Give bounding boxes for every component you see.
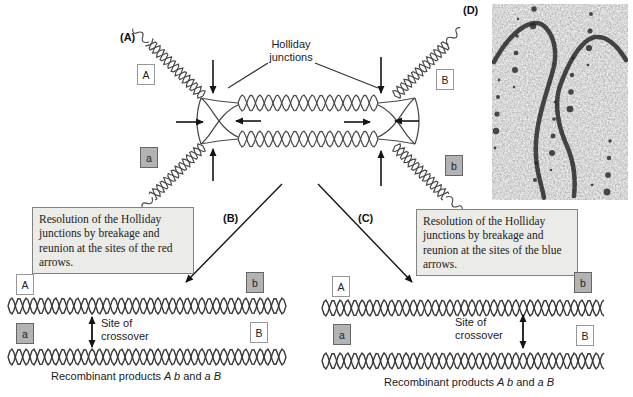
caption-genotype-1: A b bbox=[497, 376, 513, 388]
allele-box-A: A bbox=[137, 64, 155, 85]
product-right-duplex-bottom bbox=[322, 353, 604, 369]
product-left-allele-b: b bbox=[246, 272, 264, 293]
product-left-duplex-top bbox=[8, 298, 286, 314]
strand-end-squiggle bbox=[444, 26, 463, 45]
recombinant-products-caption-right: Recombinant productsA banda B bbox=[360, 376, 578, 388]
product-right-allele-A: A bbox=[332, 276, 350, 297]
central-duplex-top bbox=[238, 95, 378, 111]
caption-genotype-2: a B bbox=[205, 370, 222, 382]
holliday-junction-left bbox=[197, 98, 238, 144]
arm-bottom-right bbox=[391, 142, 450, 201]
site-of-crossover-label-right: Site of crossover bbox=[455, 316, 503, 342]
product-right-duplex-top bbox=[322, 300, 604, 316]
site-of-crossover-label-left: Site of crossover bbox=[101, 317, 149, 343]
holliday-junction-figure: (A) (B) (C) (D) Holliday junctions A B a… bbox=[0, 0, 633, 397]
product-left-allele-A: A bbox=[16, 274, 34, 295]
panel-c-label: (C) bbox=[358, 212, 373, 224]
resolution-box-blue-arrows: Resolution of the Holliday junctions by … bbox=[416, 209, 578, 276]
caption-conj: and bbox=[516, 376, 534, 388]
allele-box-b: b bbox=[445, 155, 463, 176]
holliday-label-pointer-lines bbox=[228, 63, 378, 88]
product-left-allele-B: B bbox=[250, 322, 268, 343]
product-left-duplex-bottom bbox=[8, 349, 286, 365]
product-right-allele-a: a bbox=[333, 324, 351, 345]
caption-genotype-1: A b bbox=[164, 370, 180, 382]
caption-genotype-2: a B bbox=[538, 376, 555, 388]
central-duplex-bottom bbox=[238, 131, 378, 147]
electron-micrograph bbox=[492, 4, 628, 200]
holliday-junctions-label: Holliday junctions bbox=[255, 38, 327, 64]
product-left-allele-a: a bbox=[16, 323, 34, 344]
panel-a-label: (A) bbox=[120, 31, 135, 43]
panel-d-label: (D) bbox=[463, 4, 478, 16]
product-right-allele-B: B bbox=[576, 325, 594, 346]
resolution-box-red-arrows: Resolution of the Holliday junctions by … bbox=[32, 207, 194, 274]
allele-box-a: a bbox=[140, 147, 158, 168]
allele-box-B: B bbox=[436, 69, 454, 90]
product-right-allele-b: b bbox=[574, 272, 592, 293]
caption-conj: and bbox=[183, 370, 201, 382]
resolution-pathway-arrow-c bbox=[318, 184, 412, 282]
resolution-pathway-arrow-b bbox=[186, 184, 282, 282]
caption-prefix: Recombinant products bbox=[51, 370, 161, 382]
caption-prefix: Recombinant products bbox=[384, 376, 494, 388]
panel-b-label: (B) bbox=[223, 212, 238, 224]
recombinant-products-caption-left: Recombinant productsA banda B bbox=[28, 370, 244, 382]
